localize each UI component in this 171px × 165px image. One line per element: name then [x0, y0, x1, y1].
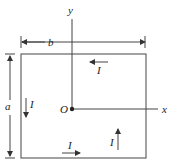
current-label-bottom: I: [67, 139, 73, 151]
height-label: a: [5, 100, 11, 112]
x-axis-label: x: [161, 103, 167, 115]
current-label-right: I: [109, 136, 115, 148]
width-label: b: [48, 36, 54, 48]
origin-label: O: [60, 103, 68, 115]
y-axis-label: y: [67, 4, 73, 16]
current-loop: [21, 54, 146, 158]
rectangular-loop-diagram: y x O b a I I I I: [0, 0, 171, 165]
origin-point: [70, 107, 74, 111]
current-label-left: I: [29, 98, 35, 110]
current-label-top: I: [96, 64, 102, 76]
